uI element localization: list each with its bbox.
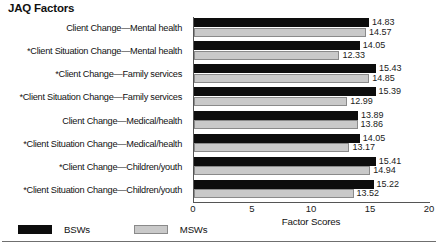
bar-group: 13.8913.86: [194, 110, 430, 133]
x-axis-title: Factor Scores: [193, 216, 429, 227]
bar-msws[interactable]: [194, 189, 354, 198]
x-axis-ticks: 05101520: [193, 203, 429, 217]
category-label: *Client Change—Family services: [55, 63, 182, 86]
bar-row: 13.86: [194, 120, 430, 129]
bar-value-label: 14.94: [370, 165, 396, 175]
bar-value-label: 14.85: [369, 73, 395, 83]
bar-group: 15.4114.94: [194, 156, 430, 179]
bar-group: 15.3912.99: [194, 86, 430, 109]
bar-row: 14.85: [194, 74, 430, 83]
legend-swatch-icon: [134, 225, 168, 234]
jaq-factors-chart: JAQ Factors Client Change—Mental health*…: [0, 0, 438, 250]
bar-msws[interactable]: [194, 28, 366, 37]
bar-value-label: 15.39: [376, 86, 402, 96]
bar-msws[interactable]: [194, 74, 369, 83]
bar-group: 14.8314.57: [194, 17, 430, 40]
bar-bsws[interactable]: [194, 134, 360, 143]
bar-value-label: 13.17: [349, 142, 375, 152]
bar-row: 14.83: [194, 18, 430, 27]
bar-row: 13.17: [194, 143, 430, 152]
bar-msws[interactable]: [194, 120, 358, 129]
x-tick-label: 0: [190, 203, 195, 215]
chart-legend: BSWsMSWs: [18, 222, 207, 236]
category-label: *Client Situation Change—Medical/health: [23, 133, 182, 156]
bar-group: 14.0512.33: [194, 40, 430, 63]
bar-bsws[interactable]: [194, 157, 376, 166]
bar-row: 14.94: [194, 166, 430, 175]
bar-msws[interactable]: [194, 51, 339, 60]
bar-row: 14.57: [194, 28, 430, 37]
bar-value-label: 12.33: [339, 50, 365, 60]
bar-row: 14.05: [194, 41, 430, 50]
bar-value-label: 12.99: [347, 96, 373, 106]
bar-msws[interactable]: [194, 166, 370, 175]
category-axis-labels: Client Change—Mental health*Client Situa…: [0, 17, 188, 202]
bar-row: 15.22: [194, 180, 430, 189]
x-tick-label: 20: [424, 203, 435, 215]
bar-value-label: 13.52: [354, 188, 380, 198]
bar-bsws[interactable]: [194, 111, 358, 120]
bar-value-label: 15.22: [374, 179, 400, 189]
legend-item-msws[interactable]: MSWs: [134, 224, 207, 235]
bar-value-label: 14.83: [369, 17, 395, 27]
x-tick-label: 5: [249, 203, 254, 215]
bar-value-label: 15.41: [376, 156, 402, 166]
bar-value-label: 14.05: [360, 40, 386, 50]
bar-bsws[interactable]: [194, 18, 369, 27]
bar-value-label: 14.05: [360, 133, 386, 143]
bar-bsws[interactable]: [194, 180, 374, 189]
bottom-divider: [2, 241, 436, 242]
category-label: *Client Change—Children/youth: [59, 156, 182, 179]
x-tick-label: 15: [365, 203, 376, 215]
category-label: *Client Situation Change—Family services: [19, 86, 182, 109]
bar-group: 14.0513.17: [194, 133, 430, 156]
category-label: Client Change—Medical/health: [62, 110, 182, 133]
bar-msws[interactable]: [194, 143, 349, 152]
category-label: *Client Situation Change—Children/youth: [23, 179, 182, 202]
bar-bsws[interactable]: [194, 64, 376, 73]
bar-row: 14.05: [194, 134, 430, 143]
bar-row: 15.39: [194, 87, 430, 96]
bar-value-label: 15.43: [376, 63, 402, 73]
bar-row: 12.99: [194, 97, 430, 106]
bar-group: 15.4314.85: [194, 63, 430, 86]
bar-value-label: 14.57: [366, 27, 392, 37]
legend-label: MSWs: [180, 224, 207, 235]
bar-bsws[interactable]: [194, 41, 360, 50]
bar-msws[interactable]: [194, 97, 347, 106]
bar-row: 12.33: [194, 51, 430, 60]
chart-title: JAQ Factors: [8, 2, 74, 14]
bar-row: 13.52: [194, 189, 430, 198]
bar-groups: 14.8314.5714.0512.3315.4314.8515.3912.99…: [194, 17, 430, 202]
plot-area: 14.8314.5714.0512.3315.4314.8515.3912.99…: [193, 17, 430, 203]
bar-value-label: 13.86: [358, 119, 384, 129]
bar-value-label: 13.89: [358, 110, 384, 120]
x-tick-label: 10: [306, 203, 317, 215]
category-label: Client Change—Mental health: [66, 17, 182, 40]
legend-swatch-icon: [18, 225, 52, 234]
legend-label: BSWs: [64, 224, 90, 235]
legend-item-bsws[interactable]: BSWs: [18, 224, 90, 235]
category-label: *Client Situation Change—Mental health: [27, 40, 182, 63]
bar-row: 13.89: [194, 111, 430, 120]
bar-group: 15.2213.52: [194, 179, 430, 202]
